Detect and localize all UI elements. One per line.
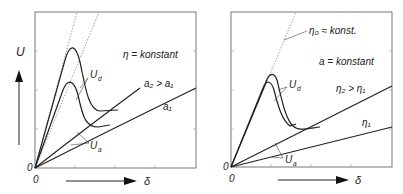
left-curve-upper-label: a₂ > a₁ xyxy=(144,78,174,89)
left-origin-y: 0 xyxy=(27,162,33,173)
right-curve-upper-label: η₂ > η₁ xyxy=(336,83,365,94)
curve-ud-upper-right xyxy=(231,74,320,167)
right-ud-label: U xyxy=(289,79,297,90)
right-arrow-icon-2 xyxy=(336,176,349,184)
left-ud-sub: d xyxy=(98,75,102,82)
left-x-axis-label: δ xyxy=(144,175,151,187)
left-ua-sub: a xyxy=(98,146,102,153)
left-condition: η = konstant xyxy=(123,49,179,60)
curve-ud-upper xyxy=(35,48,118,168)
left-origin-x: 0 xyxy=(33,174,39,185)
right-origin-y: 0 xyxy=(223,161,229,172)
right-condition: a = konstant xyxy=(319,56,375,67)
curve-ud-lower xyxy=(35,82,110,168)
left-ud-label: U xyxy=(90,69,98,80)
diagram-canvas: U η = konstant U d a₂ > a₁ a₁ U a 0 0 δ xyxy=(0,0,403,194)
curve-a2 xyxy=(35,88,140,168)
right-arrow-icon xyxy=(124,177,137,185)
right-ud-sub: d xyxy=(297,85,301,92)
left-ua-label: U xyxy=(90,140,98,151)
right-curve-lower-label: η₁ xyxy=(362,117,371,128)
left-panel: U η = konstant U d a₂ > a₁ a₁ U a 0 0 δ xyxy=(15,12,196,187)
right-asymptote-label: η₀ ≈ konst. xyxy=(309,25,357,36)
right-panel: η₀ ≈ konst. a = konstant U d η₂ > η₁ η₁ … xyxy=(223,12,392,186)
up-arrow-icon xyxy=(15,70,23,82)
left-curve-lower-label: a₁ xyxy=(163,101,172,112)
curve-eta1 xyxy=(231,127,392,167)
right-x-axis-label: δ xyxy=(355,174,362,186)
right-origin-x: 0 xyxy=(229,173,235,184)
right-ua-label: U xyxy=(285,154,293,165)
left-frame xyxy=(35,12,196,168)
right-ua-sub: a xyxy=(293,160,297,167)
left-y-axis-label: U xyxy=(16,45,25,59)
